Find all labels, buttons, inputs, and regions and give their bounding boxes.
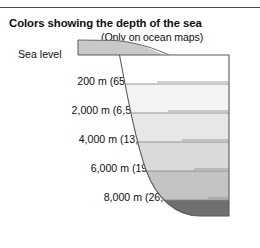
top-divider-rule	[0, 7, 260, 8]
figure-subtitle: (Only on ocean maps)	[101, 31, 203, 43]
depth-label-8000m: 8,000 m (26,240 feet)	[0, 191, 205, 203]
depth-label-4000m: 4,000 m (13,120 feet)	[0, 133, 180, 145]
figure-title: Colors showing the depth of the sea	[9, 17, 202, 29]
depth-band-below-8000m	[110, 200, 235, 225]
depth-label-2000m: 2,000 m (6,560 feet)	[0, 104, 167, 116]
sea-level-label: Sea level	[18, 48, 62, 60]
depth-label-200m: 200 m (656 feet)	[0, 75, 155, 87]
depth-of-sea-key-figure: Colors showing the depth of the sea (Onl…	[0, 0, 260, 248]
depth-label-6000m: 6,000 m (19,680 feet)	[0, 162, 192, 174]
